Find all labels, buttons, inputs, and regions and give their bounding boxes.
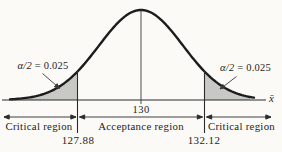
- right-region-extent-arrow: [207, 115, 272, 119]
- right-alpha-pointer-arrow: [220, 77, 237, 90]
- arrowhead-icon: [71, 115, 76, 119]
- left-critical-region-label: Critical region: [5, 120, 72, 132]
- arrowhead-icon: [207, 115, 212, 119]
- mean-value-label: 130: [132, 104, 149, 115]
- x-bar-axis-symbol: x̄: [268, 92, 274, 104]
- right-alpha-label: α/2= 0.025: [220, 62, 271, 73]
- left-critical-value-label: 127.88: [62, 134, 95, 146]
- left-alpha-pointer-arrow: [43, 74, 60, 89]
- arrowhead-icon: [80, 115, 85, 119]
- arrowhead-icon: [197, 115, 202, 119]
- left-critical-shade: [16, 71, 78, 100]
- left-region-extent-arrow: [4, 115, 76, 119]
- figure-stage: α/2= 0.025 α/2= 0.025 130 x̄ Critical re…: [0, 0, 282, 152]
- normal-curve-diagram: α/2= 0.025 α/2= 0.025 130 x̄ Critical re…: [0, 0, 282, 152]
- right-critical-value-label: 132.12: [188, 134, 221, 146]
- left-alpha-label: α/2= 0.025: [18, 60, 69, 71]
- right-critical-region-label: Critical region: [208, 120, 275, 132]
- arrowhead-icon: [266, 115, 271, 119]
- arrowhead-icon: [4, 115, 9, 119]
- acceptance-region-label: Acceptance region: [98, 120, 184, 132]
- acceptance-region-extent-arrow: [80, 115, 203, 119]
